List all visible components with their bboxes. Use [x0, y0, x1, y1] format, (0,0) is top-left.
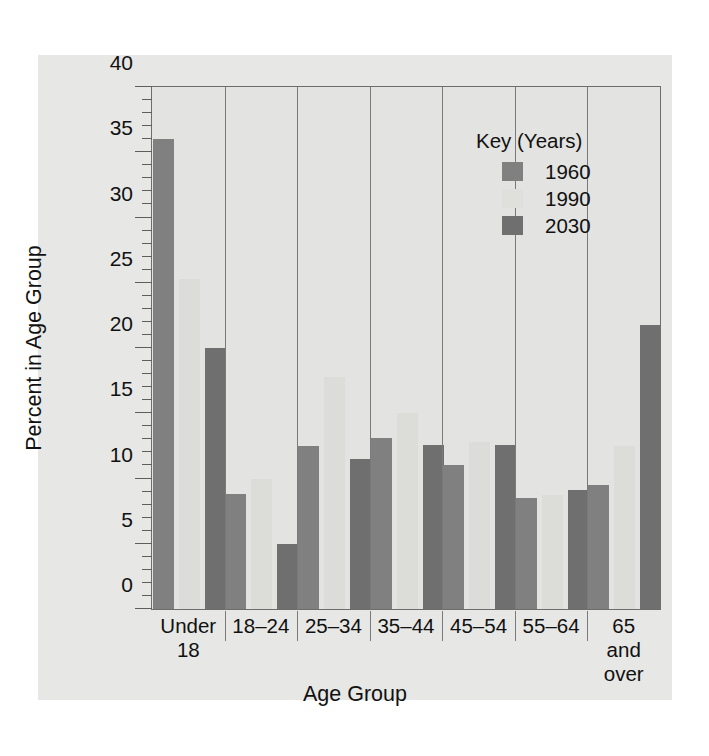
y-axis-major-tick — [135, 608, 152, 609]
bar-1960-3 — [371, 438, 392, 609]
y-axis-major-tick — [135, 412, 152, 413]
y-axis-major-tick — [135, 347, 152, 348]
y-axis-tick-label: 30 — [110, 182, 133, 206]
x-axis-category-label: 55–64 — [515, 614, 588, 638]
y-axis-minor-tick — [142, 517, 152, 518]
y-axis-tick-label: 15 — [110, 377, 133, 401]
bar-1990-0 — [179, 279, 200, 609]
y-axis-minor-tick — [142, 243, 152, 244]
y-axis-title: Percent in Age Group — [22, 245, 47, 451]
y-axis-minor-tick — [142, 438, 152, 439]
x-axis-category-label: 25–34 — [297, 614, 370, 638]
y-axis-minor-tick — [142, 491, 152, 492]
y-axis-minor-tick — [142, 256, 152, 257]
legend-swatch-icon-2030 — [502, 216, 523, 235]
y-axis-minor-tick — [142, 230, 152, 231]
figure-plate: Percent in Age Group 0510152025303540 Un… — [38, 55, 672, 700]
y-axis-minor-tick — [142, 125, 152, 126]
y-axis-tick-label: 10 — [110, 443, 133, 467]
legend-swatch-icon-1960 — [502, 162, 523, 181]
y-axis-tick-label: 25 — [110, 247, 133, 271]
bar-1990-2 — [324, 377, 345, 609]
bar-1990-3 — [397, 413, 418, 609]
legend-item-1960: 1960 — [476, 158, 591, 185]
y-axis-minor-tick — [142, 334, 152, 335]
legend-title: Key (Years) — [476, 129, 591, 153]
y-axis-minor-tick — [142, 190, 152, 191]
x-axis-category-label: 45–54 — [442, 614, 515, 638]
y-axis-minor-tick — [142, 308, 152, 309]
legend-swatch-icon-1990 — [502, 189, 523, 208]
bar-2030-2 — [350, 459, 371, 609]
group-separator — [442, 87, 443, 609]
x-axis-title: Age Group — [38, 682, 672, 707]
y-axis-major-tick — [135, 543, 152, 544]
bar-1960-0 — [153, 139, 174, 609]
bar-2030-1 — [277, 544, 298, 609]
y-axis-minor-tick — [142, 451, 152, 452]
group-separator — [225, 87, 226, 609]
y-axis-minor-tick — [142, 360, 152, 361]
y-axis-major-tick — [135, 217, 152, 218]
y-axis-minor-tick — [142, 399, 152, 400]
x-axis-category-label: Under 18 — [152, 614, 225, 662]
plot-area: 0510152025303540 Under 1818–2425–3435–44… — [151, 86, 661, 610]
y-axis-minor-tick — [142, 569, 152, 570]
bar-1990-1 — [251, 479, 272, 610]
y-axis-minor-tick — [142, 556, 152, 557]
y-axis-minor-tick — [142, 295, 152, 296]
y-axis-minor-tick — [142, 321, 152, 322]
bar-1960-5 — [516, 498, 537, 609]
x-axis-category-label: 65 and over — [587, 614, 660, 686]
legend-item-2030: 2030 — [476, 212, 591, 239]
y-axis-minor-tick — [142, 373, 152, 374]
bar-1960-4 — [443, 465, 464, 609]
bar-1990-4 — [469, 442, 490, 609]
group-separator — [297, 87, 298, 609]
bar-1990-6 — [614, 446, 635, 609]
y-axis-minor-tick — [142, 464, 152, 465]
y-axis-minor-tick — [142, 530, 152, 531]
legend-label-2030: 2030 — [545, 214, 591, 238]
y-axis-minor-tick — [142, 164, 152, 165]
y-axis-major-tick — [135, 282, 152, 283]
y-axis-tick-label: 5 — [121, 508, 133, 532]
y-axis-minor-tick — [142, 582, 152, 583]
y-axis-major-tick — [135, 478, 152, 479]
y-axis-major-tick — [135, 151, 152, 152]
y-axis-minor-tick — [142, 425, 152, 426]
y-axis-minor-tick — [142, 386, 152, 387]
y-axis-minor-tick — [142, 269, 152, 270]
bar-2030-4 — [495, 445, 516, 609]
y-axis-minor-tick — [142, 177, 152, 178]
bar-1960-6 — [588, 485, 609, 609]
bar-1990-5 — [542, 495, 563, 609]
y-axis-tick-label: 20 — [110, 312, 133, 336]
legend-item-1990: 1990 — [476, 185, 591, 212]
bar-2030-3 — [423, 445, 444, 609]
legend-label-1960: 1960 — [545, 160, 591, 184]
bar-1960-2 — [298, 446, 319, 609]
legend: Key (Years) 1960 1990 2030 — [476, 129, 591, 239]
bar-2030-5 — [568, 490, 589, 609]
y-axis-minor-tick — [142, 112, 152, 113]
y-axis-minor-tick — [142, 504, 152, 505]
bar-2030-6 — [640, 325, 661, 609]
y-axis-minor-tick — [142, 203, 152, 204]
y-axis-minor-tick — [142, 99, 152, 100]
y-axis-tick-label: 40 — [110, 51, 133, 75]
y-axis-minor-tick — [142, 595, 152, 596]
y-axis-minor-tick — [142, 138, 152, 139]
y-axis-tick-label: 0 — [121, 573, 133, 597]
x-axis-category-label: 18–24 — [225, 614, 298, 638]
y-axis-tick-label: 35 — [110, 116, 133, 140]
x-axis-category-label: 35–44 — [370, 614, 443, 638]
bar-1960-1 — [225, 494, 246, 609]
group-separator — [370, 87, 371, 609]
bar-2030-0 — [205, 348, 226, 609]
y-axis-major-tick — [135, 86, 152, 87]
legend-label-1990: 1990 — [545, 187, 591, 211]
